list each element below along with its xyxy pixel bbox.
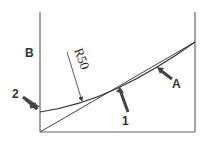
diagram-canvas: R50 2 1 A B <box>0 0 208 146</box>
radius-label: R50 <box>71 46 93 71</box>
label-2: 2 <box>12 87 19 101</box>
label-1: 1 <box>122 114 129 128</box>
label-a: A <box>172 77 181 91</box>
arrow-1-icon <box>120 90 128 112</box>
label-b: B <box>25 46 34 60</box>
arrow-2-icon <box>23 97 37 109</box>
arrow-a-icon <box>160 70 172 79</box>
